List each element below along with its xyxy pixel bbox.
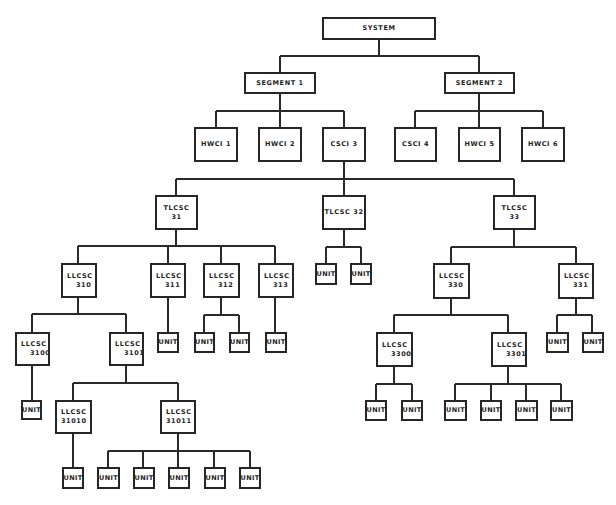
node-label: HWCI 5 bbox=[464, 140, 494, 149]
node-llcsc-31010: LLCSC31010 bbox=[55, 400, 92, 434]
node-type: LLCSC bbox=[497, 341, 523, 350]
node-number: 313 bbox=[264, 281, 288, 290]
unit-box: UNIT bbox=[21, 400, 42, 420]
node-number: 311 bbox=[156, 281, 180, 290]
node-label: UNIT bbox=[317, 270, 336, 279]
node-type: LLCSC bbox=[209, 272, 235, 281]
unit-box: UNIT bbox=[546, 332, 569, 353]
node-label: TLCSC 33 bbox=[495, 204, 534, 222]
node-label: CSCI 3 bbox=[330, 140, 357, 149]
node-type: LLCSC bbox=[67, 272, 93, 281]
node-label: UNIT bbox=[548, 338, 567, 347]
node-llcsc-312: LLCSC312 bbox=[203, 263, 240, 298]
node-number: 31011 bbox=[166, 417, 192, 426]
node-label: UNIT bbox=[206, 474, 225, 483]
node-type: LLCSC bbox=[439, 272, 465, 281]
node-label: HWCI 2 bbox=[265, 140, 295, 149]
node-llcsc-313: LLCSC313 bbox=[258, 263, 294, 298]
unit-box: UNIT bbox=[350, 263, 372, 285]
node-label: UNIT bbox=[552, 406, 571, 415]
node-llcsc-3301: LLCSC3301 bbox=[491, 332, 527, 367]
node-llcsc-3100: LLCSC3100 bbox=[15, 332, 50, 366]
node-llcsc-3101: LLCSC3101 bbox=[109, 332, 144, 366]
node-label: UNIT bbox=[517, 406, 536, 415]
unit-box: UNIT bbox=[444, 400, 467, 421]
unit-box: UNIT bbox=[62, 467, 84, 489]
node-tlcsc-32: TLCSC 32 bbox=[322, 195, 366, 230]
node-label: UNIT bbox=[446, 406, 465, 415]
node-label: UNIT bbox=[99, 474, 118, 483]
node-label: UNIT bbox=[64, 474, 83, 483]
unit-box: UNIT bbox=[157, 332, 179, 353]
unit-box: UNIT bbox=[401, 400, 423, 421]
node-segment-2: SEGMENT 2 bbox=[444, 72, 515, 94]
unit-box: UNIT bbox=[239, 467, 261, 489]
node-label: UNIT bbox=[170, 474, 189, 483]
unit-box: UNIT bbox=[133, 467, 155, 489]
node-label: UNIT bbox=[135, 474, 154, 483]
unit-box: UNIT bbox=[550, 400, 573, 421]
node-label: SYSTEM bbox=[362, 24, 395, 33]
node-label: TLCSC 32 bbox=[324, 208, 363, 217]
node-label: UNIT bbox=[584, 338, 603, 347]
unit-box: UNIT bbox=[365, 400, 387, 421]
node-label: UNIT bbox=[403, 406, 422, 415]
node-label: TLCSC 31 bbox=[157, 204, 196, 222]
node-number: 310 bbox=[67, 281, 91, 290]
node-label: UNIT bbox=[159, 338, 178, 347]
node-label: UNIT bbox=[352, 270, 371, 279]
unit-box: UNIT bbox=[265, 332, 287, 353]
node-label: UNIT bbox=[230, 338, 249, 347]
node-type: LLCSC bbox=[21, 340, 47, 349]
node-label: UNIT bbox=[241, 474, 260, 483]
unit-box: UNIT bbox=[229, 332, 250, 353]
unit-box: UNIT bbox=[168, 467, 190, 489]
node-type: LLCSC bbox=[264, 272, 290, 281]
unit-box: UNIT bbox=[315, 263, 337, 285]
node-number: 330 bbox=[439, 281, 463, 290]
node-llcsc-311: LLCSC311 bbox=[150, 263, 186, 298]
node-hwci-1: HWCI 1 bbox=[194, 127, 238, 162]
node-type: LLCSC bbox=[382, 341, 408, 350]
node-label: UNIT bbox=[482, 406, 501, 415]
connector-lines bbox=[32, 40, 592, 467]
node-label: HWCI 1 bbox=[201, 140, 231, 149]
node-llcsc-31011: LLCSC31011 bbox=[160, 400, 196, 434]
node-label: UNIT bbox=[267, 338, 286, 347]
node-system: SYSTEM bbox=[322, 17, 436, 40]
node-csci-3: CSCI 3 bbox=[322, 127, 366, 162]
node-csci-4: CSCI 4 bbox=[394, 127, 437, 162]
node-type: LLCSC bbox=[61, 408, 87, 417]
node-llcsc-310: LLCSC310 bbox=[61, 263, 97, 298]
node-number: 3301 bbox=[497, 350, 527, 359]
unit-box: UNIT bbox=[515, 400, 538, 421]
unit-box: UNIT bbox=[582, 332, 604, 353]
unit-box: UNIT bbox=[204, 467, 226, 489]
node-type: LLCSC bbox=[115, 340, 141, 349]
node-label: CSCI 4 bbox=[402, 140, 429, 149]
node-type: LLCSC bbox=[166, 408, 192, 417]
node-number: 331 bbox=[564, 281, 588, 290]
node-label: SEGMENT 1 bbox=[256, 79, 303, 88]
node-label: HWCI 6 bbox=[528, 140, 558, 149]
node-number: 3300 bbox=[382, 350, 412, 359]
node-label: UNIT bbox=[367, 406, 386, 415]
node-hwci-5: HWCI 5 bbox=[458, 127, 501, 162]
node-tlcsc-31: TLCSC 31 bbox=[155, 195, 198, 230]
node-llcsc-330: LLCSC330 bbox=[433, 263, 470, 299]
node-type: LLCSC bbox=[564, 272, 590, 281]
node-segment-1: SEGMENT 1 bbox=[244, 72, 316, 94]
node-type: LLCSC bbox=[156, 272, 182, 281]
node-number: 31010 bbox=[61, 417, 87, 426]
node-hwci-6: HWCI 6 bbox=[521, 127, 565, 162]
node-hwci-2: HWCI 2 bbox=[258, 127, 302, 162]
node-tlcsc-33: TLCSC 33 bbox=[493, 195, 536, 230]
unit-box: UNIT bbox=[480, 400, 502, 421]
unit-box: UNIT bbox=[97, 467, 120, 489]
node-llcsc-3300: LLCSC3300 bbox=[376, 332, 413, 367]
node-label: SEGMENT 2 bbox=[456, 79, 503, 88]
node-number: 3100 bbox=[21, 349, 51, 358]
node-number: 3101 bbox=[115, 349, 145, 358]
unit-box: UNIT bbox=[194, 332, 215, 353]
node-number: 312 bbox=[209, 281, 233, 290]
